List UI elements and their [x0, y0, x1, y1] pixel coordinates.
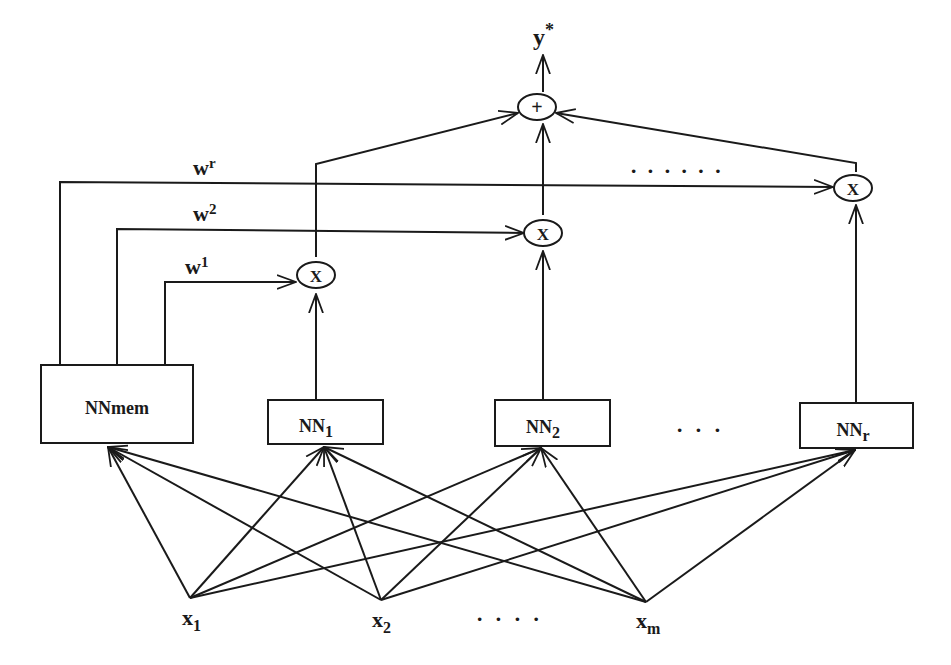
weight-label-r: wr [193, 155, 216, 180]
network-to-product-edges [316, 205, 856, 403]
weight-label-1: w1 [185, 254, 208, 279]
svg-text:X: X [310, 267, 323, 286]
network-nnmem: NNmem [41, 365, 193, 443]
ellipsis-inputs: · · · · [476, 606, 543, 631]
network-nnr: NNr [800, 403, 913, 448]
input-x2: x2 [372, 607, 391, 636]
svg-text:X: X [847, 180, 860, 199]
sum-node: + [518, 94, 556, 120]
svg-text:+: + [531, 96, 542, 118]
network-nn1: NN1 [268, 400, 383, 444]
input-xm: xm [636, 608, 661, 637]
weight-label-2: w2 [193, 201, 216, 226]
ellipsis-networks: · · · [676, 417, 724, 442]
product-node-r: X [834, 175, 872, 201]
svg-text:X: X [537, 225, 550, 244]
diagram-canvas: y* + X X X wr w2 w1 · · · · · · NNmem NN… [0, 0, 951, 665]
input-x1: x1 [182, 605, 201, 634]
ellipsis-top: · · · · · · [630, 158, 724, 183]
input-edges [108, 447, 855, 602]
product-node-2: X [524, 220, 562, 246]
svg-text:NNmem: NNmem [85, 398, 149, 418]
network-nn2: NN2 [495, 400, 610, 446]
product-node-1: X [297, 262, 335, 288]
weight-edges [60, 182, 833, 365]
output-label: y* [533, 20, 554, 50]
